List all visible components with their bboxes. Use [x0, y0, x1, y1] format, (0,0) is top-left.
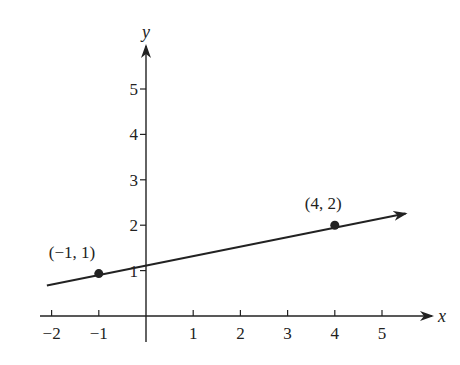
x-tick-label: −1	[90, 324, 108, 343]
y-tick-label: 3	[130, 171, 139, 190]
axes: xy	[40, 22, 446, 342]
y-tick-label: 2	[130, 216, 139, 235]
x-tick-label: −2	[43, 324, 61, 343]
x-tick-label: 1	[189, 324, 198, 343]
x-tick-label: 4	[331, 324, 340, 343]
y-tick-label: 1	[130, 262, 139, 281]
data-point	[330, 221, 339, 230]
point-label: (4, 2)	[305, 194, 342, 213]
x-tick-label: 5	[378, 324, 387, 343]
x-axis-label: x	[437, 306, 446, 326]
data-point	[94, 269, 103, 278]
point-label: (−1, 1)	[49, 243, 95, 262]
x-tick-label: 3	[283, 324, 292, 343]
x-tick-label: 2	[236, 324, 245, 343]
y-tick-label: 5	[130, 80, 139, 99]
y-tick-label: 4	[130, 125, 139, 144]
y-axis-label: y	[140, 22, 150, 42]
coordinate-plane: xy −2−11234512345 (−1, 1)(4, 2)	[0, 0, 460, 365]
